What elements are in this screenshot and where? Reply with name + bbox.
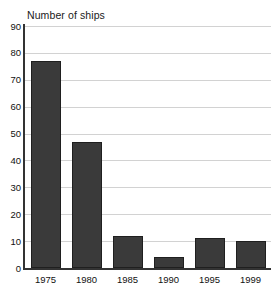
y-tick-label: 20 — [1, 210, 21, 219]
x-tick-label: 1985 — [107, 274, 148, 285]
bar — [236, 241, 266, 268]
y-tick-label: 60 — [1, 102, 21, 111]
x-axis-tick-labels: 197519801985199019951999 — [25, 274, 271, 294]
bar — [72, 142, 102, 268]
bar — [195, 238, 225, 268]
x-tick-label: 1975 — [25, 274, 66, 285]
y-axis-tick-labels: 0102030405060708090 — [0, 0, 21, 307]
bars-layer — [25, 26, 271, 268]
bar — [31, 61, 61, 268]
x-tick-label: 1980 — [66, 274, 107, 285]
x-axis-line — [23, 268, 271, 270]
y-tick-label: 90 — [1, 22, 21, 31]
y-tick-label: 40 — [1, 156, 21, 165]
bar — [154, 257, 184, 268]
chart-title: Number of ships — [27, 9, 105, 21]
x-tick-label: 1999 — [230, 274, 271, 285]
x-tick-label: 1995 — [189, 274, 230, 285]
x-tick-label: 1990 — [148, 274, 189, 285]
y-tick-label: 50 — [1, 129, 21, 138]
y-tick-label: 70 — [1, 75, 21, 84]
y-tick-label: 30 — [1, 183, 21, 192]
y-tick-label: 0 — [1, 264, 21, 273]
bar-chart: Number of ships 0102030405060708090 1975… — [0, 0, 277, 307]
bar — [113, 236, 143, 268]
y-tick-label: 80 — [1, 48, 21, 57]
y-tick-label: 10 — [1, 237, 21, 246]
